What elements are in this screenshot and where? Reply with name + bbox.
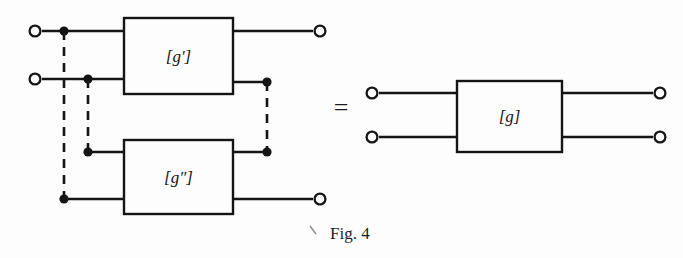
figure-container: [g′] [g″]	[0, 0, 683, 258]
block-g-prime-label: [g′]	[166, 47, 191, 66]
junction-dot-out-upper	[262, 77, 271, 86]
caption-tick-mark	[310, 226, 316, 234]
block-g-prime: [g′]	[124, 18, 233, 94]
terminal-in-top	[30, 26, 41, 37]
junction-dot-in-top	[59, 26, 68, 35]
terminal-out-top	[315, 26, 326, 37]
terminal-r-out-top	[655, 88, 666, 99]
caption-group: Fig. 4	[310, 224, 370, 243]
terminal-r-out-bottom	[655, 132, 666, 143]
block-g-combined-label: [g]	[499, 107, 521, 126]
junction-dot-out-lower	[262, 147, 271, 156]
right-network-group: [g]	[367, 81, 666, 152]
figure-caption: Fig. 4	[330, 224, 370, 243]
junction-dot-lower-in	[83, 147, 92, 156]
terminal-out-bottom	[315, 194, 326, 205]
block-g-double-prime-label: [g″]	[164, 168, 193, 187]
circuit-diagram-svg: [g′] [g″]	[0, 0, 683, 258]
terminal-r-in-bottom	[367, 132, 378, 143]
block-g-double-prime: [g″]	[124, 140, 233, 214]
equality-symbol: =	[334, 93, 349, 122]
terminal-r-in-top	[367, 88, 378, 99]
left-network-group: [g′] [g″]	[30, 18, 326, 214]
block-g-combined: [g]	[457, 81, 562, 152]
terminal-in-bottom	[30, 74, 41, 85]
junction-dot-lower-bottom	[59, 194, 68, 203]
junction-dot-in-bottom	[83, 74, 92, 83]
